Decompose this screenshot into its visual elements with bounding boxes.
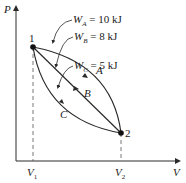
v1-symbol: V — [27, 166, 34, 178]
work-b-value: = 8 kJ — [90, 30, 117, 42]
v2-symbol: V — [115, 166, 122, 178]
v1-label: V1 — [27, 167, 37, 181]
v2-label: V2 — [115, 167, 125, 181]
work-c-symbol: W — [74, 59, 83, 71]
state-1-label: 1 — [29, 33, 35, 44]
work-a-symbol: W — [73, 13, 82, 25]
work-b-subscript: B — [83, 37, 87, 45]
state-2-label: 2 — [125, 128, 131, 139]
path-c-label: C — [60, 109, 67, 120]
p-axis-label: P — [4, 4, 11, 15]
work-a-subscript: A — [82, 20, 86, 28]
leader-wb — [56, 37, 73, 66]
state-2-point — [118, 130, 124, 136]
path-b-label: B — [84, 88, 91, 99]
work-b-label: WB = 8 kJ — [74, 31, 117, 45]
work-b-symbol: W — [74, 30, 83, 42]
v1-subscript: 1 — [34, 173, 38, 181]
v2-subscript: 2 — [122, 173, 126, 181]
work-c-label: WC = 5 kJ — [74, 60, 118, 74]
v-axis-label: V — [173, 167, 180, 178]
work-a-value: = 10 kJ — [89, 13, 121, 25]
work-a-label: WA = 10 kJ — [73, 14, 122, 28]
work-c-subscript: C — [83, 66, 88, 74]
work-c-value: = 5 kJ — [91, 59, 118, 71]
state-1-point — [30, 44, 36, 50]
